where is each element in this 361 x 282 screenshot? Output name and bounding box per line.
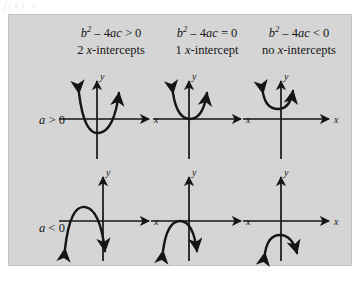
count-prefix: no <box>262 43 278 57</box>
condition-discriminant-negative: b2 – 4ac < 0 <box>241 21 357 41</box>
parabola-curve <box>65 207 105 251</box>
condition-vars: ac <box>206 26 218 40</box>
condition-vars: ac <box>110 26 122 40</box>
condition-relation: = 0 <box>218 26 238 40</box>
y-axis-label: y <box>191 167 197 178</box>
y-axis-label: y <box>99 71 105 82</box>
parabola-curve <box>79 93 119 133</box>
x-axis-label: x <box>333 216 339 227</box>
discriminant-figure: f(x) = b2 – 4ac > 0 2 x-intercepts b2 – … <box>0 0 361 282</box>
condition-relation: > 0 <box>122 26 142 40</box>
count-suffix: -intercepts <box>92 43 145 57</box>
x-axis-label: x <box>333 114 339 125</box>
condition-rest: – 4 <box>187 26 206 40</box>
figure-panel: b2 – 4ac > 0 2 x-intercepts b2 – 4ac = 0… <box>8 14 352 266</box>
intercept-count-discriminant-negative: no x-intercepts <box>241 42 357 58</box>
condition-rest: – 4 <box>279 26 298 40</box>
condition-vars: ac <box>298 26 310 40</box>
parabola-curve <box>263 91 293 109</box>
graph-a-negative-discriminant-negative: x y <box>241 165 357 269</box>
count-prefix: 2 <box>77 43 86 57</box>
y-axis-label: y <box>191 71 197 82</box>
count-suffix: -intercepts <box>283 43 336 57</box>
parabola-curve <box>163 221 197 251</box>
parabola-curve <box>173 93 207 119</box>
graph-a-positive-discriminant-negative: x y <box>241 63 357 167</box>
y-axis-label: y <box>283 71 289 82</box>
count-prefix: 1 <box>176 43 185 57</box>
condition-rest: – 4 <box>91 26 110 40</box>
column-headers: b2 – 4ac > 0 2 x-intercepts b2 – 4ac = 0… <box>9 21 353 61</box>
column-header-discriminant-negative: b2 – 4ac < 0 no x-intercepts <box>241 21 357 58</box>
condition-relation: < 0 <box>310 26 330 40</box>
cropped-top-text: f(x) = <box>4 0 144 11</box>
y-axis-label: y <box>105 167 111 178</box>
y-axis-label: y <box>283 167 289 178</box>
count-suffix: -intercept <box>191 43 239 57</box>
